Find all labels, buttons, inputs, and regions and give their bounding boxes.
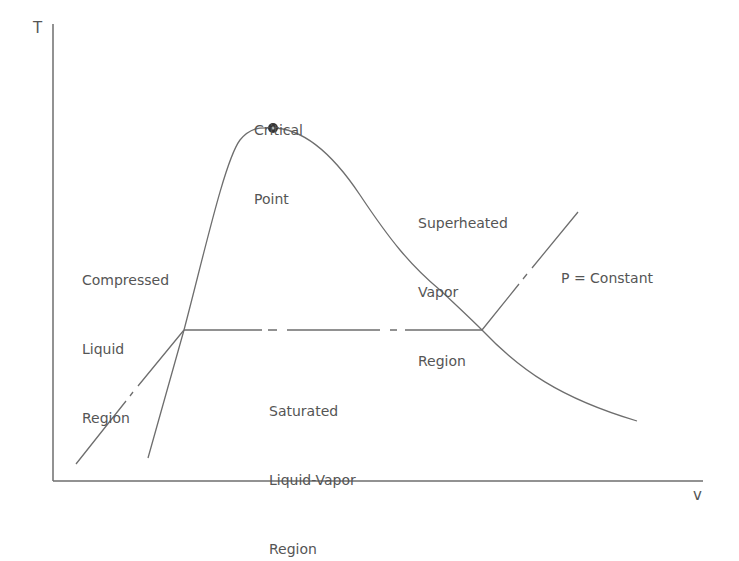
label-line: Region	[269, 538, 356, 561]
saturation-dome-curve	[148, 128, 637, 458]
isobar-label: P = Constant	[561, 267, 653, 290]
label-line: Region	[418, 350, 508, 373]
x-axis-label: v	[693, 486, 702, 504]
critical-point-label: Critical Point	[254, 73, 303, 234]
label-line: Compressed	[82, 269, 169, 292]
label-line: Vapor	[418, 281, 508, 304]
label-line: Superheated	[418, 212, 508, 235]
compressed-liquid-label: Compressed Liquid Region	[82, 223, 169, 453]
saturated-mixture-label: Saturated Liquid-Vapor Region	[269, 354, 356, 561]
superheated-vapor-label: Superheated Vapor Region	[418, 166, 508, 396]
y-axis-label: T	[33, 19, 42, 37]
label-line: Critical	[254, 119, 303, 142]
label-line: Region	[82, 407, 169, 430]
label-line: Point	[254, 188, 303, 211]
label-line: Liquid-Vapor	[269, 469, 356, 492]
label-line: Saturated	[269, 400, 356, 423]
label-line: Liquid	[82, 338, 169, 361]
